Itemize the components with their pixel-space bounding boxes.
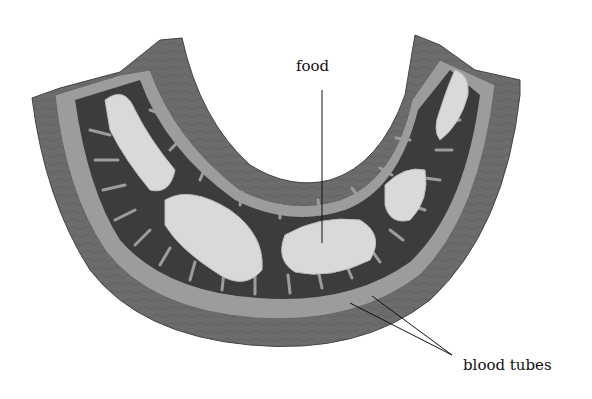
food-label: food bbox=[296, 57, 329, 75]
blood-tubes-label: blood tubes bbox=[463, 356, 552, 374]
intestine-diagram: food blood tubes bbox=[0, 0, 592, 399]
